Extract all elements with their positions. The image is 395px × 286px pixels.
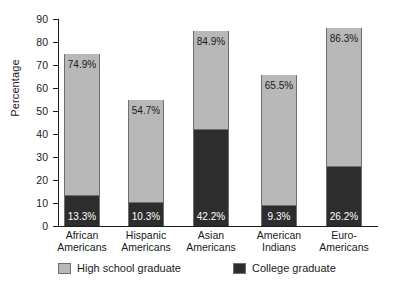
segment-value-label: 9.3% [262,211,296,222]
legend-item-high-school-graduate[interactable]: High school graduate [58,261,181,275]
plot-area: 74.9%13.3%54.7%10.3%84.9%42.2%65.5%9.3%8… [58,19,376,226]
legend-swatch-icon [233,263,246,274]
bar-american-indians[interactable]: 65.5%9.3% [261,75,297,226]
x-axis-label-4: Euro-Americans [296,230,392,253]
y-axis-tick-label: 10 [8,198,48,208]
segment-college-graduate[interactable]: 26.2% [327,166,361,226]
segment-value-label: 74.9% [65,59,99,70]
segment-value-label: 86.3% [327,33,361,44]
segment-high-school-graduate[interactable]: 54.7% [129,100,163,202]
x-axis-label-line: Americans [296,242,392,254]
bar-hispanic-americans[interactable]: 54.7%10.3% [128,100,164,226]
segment-high-school-graduate[interactable]: 86.3% [327,28,361,166]
y-axis-tick-label: 70 [8,60,48,70]
y-axis-tick-label: 80 [8,37,48,47]
legend-swatch-icon [58,263,71,274]
segment-value-label: 10.3% [129,211,163,222]
stacked-bar-chart: Percentage 9080706050403020100 74.9%13.3… [0,0,395,286]
bar-euro-americans[interactable]: 86.3%26.2% [326,28,362,226]
y-axis-tick-label: 40 [8,129,48,139]
legend-item-college-graduate[interactable]: College graduate [233,261,336,275]
segment-college-graduate[interactable]: 42.2% [194,129,228,226]
y-axis-tick-label: 90 [8,14,48,24]
segment-high-school-graduate[interactable]: 65.5% [262,75,296,204]
segment-value-label: 42.2% [194,211,228,222]
y-axis-tick-label: 60 [8,83,48,93]
x-axis-label-line: Euro- [296,230,392,242]
segment-college-graduate[interactable]: 9.3% [262,205,296,226]
bar-asian-americans[interactable]: 84.9%42.2% [193,31,229,226]
legend-label: College graduate [252,262,336,274]
x-axis-line [58,226,378,227]
segment-value-label: 26.2% [327,211,361,222]
bar-african-americans[interactable]: 74.9%13.3% [64,54,100,226]
chart-legend: High school graduateCollege graduate [58,261,358,277]
segment-value-label: 54.7% [129,105,163,116]
segment-high-school-graduate[interactable]: 84.9% [194,31,228,129]
y-axis-tick [53,226,59,227]
y-axis-tick-label: 30 [8,152,48,162]
segment-value-label: 84.9% [194,36,228,47]
segment-value-label: 65.5% [262,80,296,91]
segment-value-label: 13.3% [65,211,99,222]
legend-label: High school graduate [77,262,181,274]
y-axis-tick-label: 20 [8,175,48,185]
segment-college-graduate[interactable]: 13.3% [65,195,99,226]
y-axis-tick-label: 50 [8,106,48,116]
segment-high-school-graduate[interactable]: 74.9% [65,54,99,196]
segment-college-graduate[interactable]: 10.3% [129,202,163,226]
